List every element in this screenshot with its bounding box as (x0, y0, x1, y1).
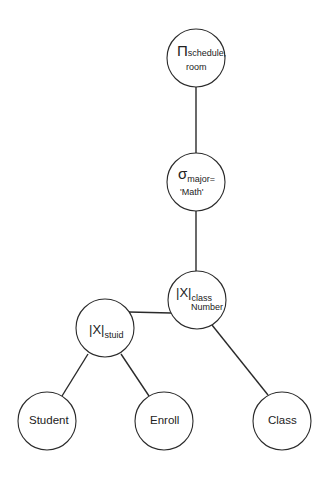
join-class-attr-line2: Number (191, 303, 223, 312)
join-stuid-attr: stuid (104, 330, 123, 340)
join-class-node-label: |X|class (176, 284, 212, 300)
selection-condition-line2: 'Math' (180, 188, 203, 197)
selection-node-label: σmajor= (178, 166, 215, 182)
projection-attr-line2: room (186, 63, 207, 72)
selection-condition-line1: major= (187, 174, 215, 184)
edge-join_stuid-to-student (62, 354, 88, 396)
join-stuid-symbol: |X| (89, 322, 104, 337)
query-tree-diagram (0, 0, 325, 478)
selection-symbol: σ (178, 165, 187, 182)
enroll-relation-label: Enroll (150, 415, 179, 427)
student-relation-label: Student (29, 415, 69, 427)
join-stuid-node-label: |X|stuid (89, 321, 123, 337)
edge-join_stuid-to-enroll (121, 354, 149, 396)
edge-join_class-to-join_stuid (129, 312, 171, 313)
nodes (18, 29, 311, 450)
projection-attr-line1: schedule, (188, 48, 227, 58)
projection-node-label: Πschedule, (177, 43, 226, 59)
edge-join_class-to-class (212, 325, 268, 395)
projection-symbol: Π (177, 42, 188, 59)
join-class-symbol: |X| (176, 285, 191, 300)
class-relation-label: Class (268, 415, 297, 427)
